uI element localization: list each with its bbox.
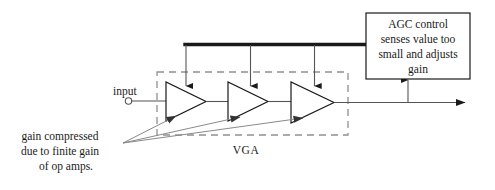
annotation-arrow-2: [123, 117, 240, 143]
agc-box-line-1: AGC control: [388, 18, 448, 30]
amplifier-triangle-3: [291, 82, 334, 123]
annotation-line-2: due to finite gain: [21, 145, 99, 158]
agc-box-line-2: senses value too: [381, 33, 456, 45]
amplifier-triangle-1: [166, 82, 206, 121]
input-label: input: [113, 85, 137, 98]
annotation-line-1: gain compressed: [22, 130, 99, 143]
agc-box-line-4: gain: [408, 63, 428, 76]
amplifier-triangle-2: [228, 82, 268, 121]
annotation-line-3: of op amps.: [39, 160, 93, 173]
diagram-canvas: AGC control senses value too small and a…: [0, 0, 495, 190]
vga-label: VGA: [233, 144, 260, 156]
annotation-arrow-3: [123, 118, 303, 143]
agc-box-line-3: small and adjusts: [378, 48, 458, 61]
input-terminal-circle: [125, 98, 131, 104]
